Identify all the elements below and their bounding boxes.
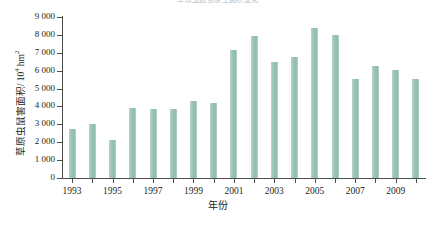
y-axis-tick-label: 3 000 xyxy=(7,119,55,128)
x-axis-title: 年份 xyxy=(0,200,436,212)
bar xyxy=(69,129,76,178)
y-axis-tick-label: 2 000 xyxy=(7,137,55,146)
y-axis-tick xyxy=(57,178,62,179)
bar xyxy=(352,79,359,178)
bar xyxy=(311,28,318,178)
bar xyxy=(392,70,399,178)
chart-title: 草原虫鼠害发生面积变化 xyxy=(0,0,436,3)
x-axis-tick-label: 1997 xyxy=(133,186,173,196)
x-axis-tick xyxy=(274,179,275,183)
x-axis-tick xyxy=(193,179,194,183)
bar xyxy=(190,101,197,178)
y-axis-tick-label: 6 000 xyxy=(7,66,55,75)
x-axis-tick-label: 2003 xyxy=(254,186,294,196)
bar-series xyxy=(62,17,426,178)
x-axis-tick xyxy=(315,179,316,183)
x-axis-tick-label: 2005 xyxy=(295,186,335,196)
x-axis-tick-label: 2001 xyxy=(214,186,254,196)
x-axis-line xyxy=(62,178,426,179)
y-axis-tick-label: 7 000 xyxy=(7,48,55,57)
y-axis-tick-label: 8 000 xyxy=(7,30,55,39)
x-axis-tick xyxy=(416,179,417,183)
x-axis-tick xyxy=(234,179,235,183)
x-axis-tick xyxy=(375,179,376,183)
x-axis-tick xyxy=(396,179,397,183)
x-axis-tick-label: 2009 xyxy=(376,186,416,196)
bar xyxy=(109,140,116,178)
bar xyxy=(230,50,237,178)
bar xyxy=(332,35,339,178)
bar xyxy=(89,124,96,178)
y-axis-tick-labels: 01 0002 0003 0004 0005 0006 0007 0008 00… xyxy=(5,0,55,227)
bar xyxy=(170,109,177,178)
bar xyxy=(412,79,419,178)
bar xyxy=(271,62,278,178)
x-axis-tick xyxy=(113,179,114,183)
y-axis-tick-label: 1 000 xyxy=(7,155,55,164)
x-axis-tick xyxy=(173,179,174,183)
x-axis-tick-label: 1999 xyxy=(173,186,213,196)
bar xyxy=(129,108,136,178)
bar xyxy=(251,36,258,178)
chart-figure: 草原虫鼠害发生面积变化 草原虫鼠害面积/ 104 hm2 01 0002 000… xyxy=(0,0,436,227)
x-axis-tick-label: 2007 xyxy=(335,186,375,196)
x-axis-tick xyxy=(214,179,215,183)
x-axis-tick xyxy=(355,179,356,183)
bar xyxy=(210,103,217,178)
bar xyxy=(372,66,379,178)
x-axis-tick xyxy=(133,179,134,183)
x-axis-tick xyxy=(72,179,73,183)
y-axis-tick-label: 0 xyxy=(7,173,55,182)
y-axis-tick-label: 4 000 xyxy=(7,101,55,110)
bar xyxy=(291,57,298,178)
x-axis-tick xyxy=(153,179,154,183)
x-axis-tick xyxy=(92,179,93,183)
y-axis-tick-label: 9 000 xyxy=(7,12,55,21)
x-axis-tick xyxy=(335,179,336,183)
x-axis-tick-label: 1995 xyxy=(93,186,133,196)
x-axis-tick xyxy=(295,179,296,183)
bar xyxy=(150,109,157,178)
x-axis-tick-label: 1993 xyxy=(52,186,92,196)
y-axis-tick-label: 5 000 xyxy=(7,84,55,93)
x-axis-tick xyxy=(254,179,255,183)
